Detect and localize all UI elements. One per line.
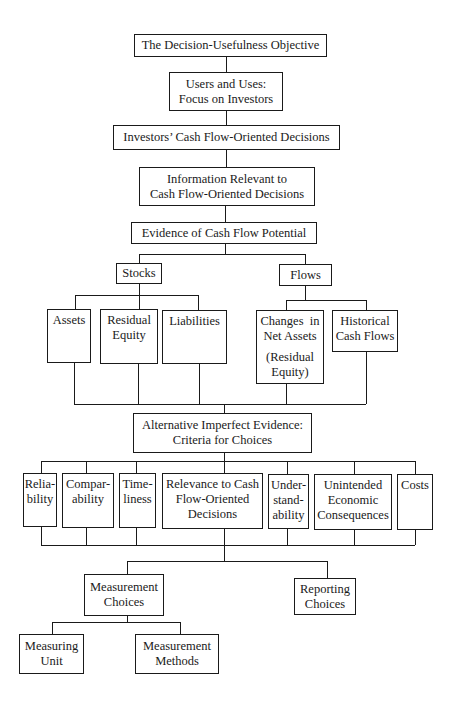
- node-investors-decisions: Investors’ Cash Flow-Oriented Decisions: [113, 125, 340, 150]
- node-label: Flows: [290, 268, 321, 283]
- node-label: Historical: [340, 314, 389, 329]
- node-label: Changes in: [260, 314, 319, 329]
- node-timeliness: Time- liness: [119, 473, 156, 528]
- node-measuring-unit: Measuring Unit: [19, 634, 84, 674]
- node-label: Unintended: [324, 478, 382, 493]
- connector: [224, 545, 225, 561]
- node-changes-in-net-assets: Changes in Net Assets (Residual Equity): [256, 310, 324, 384]
- node-label: Compar-: [66, 477, 110, 492]
- node-label: Relevance to Cash: [166, 477, 259, 492]
- node-label: Choices: [104, 595, 144, 610]
- connector: [180, 622, 181, 634]
- connector: [52, 622, 53, 634]
- node-evidence: Evidence of Cash Flow Potential: [131, 222, 317, 244]
- node-label: Criteria for Choices: [173, 433, 272, 448]
- node-measurement-choices: Measurement Choices: [84, 574, 164, 616]
- node-relevance: Relevance to Cash Flow-Oriented Decision…: [162, 473, 263, 529]
- node-label: Assets: [53, 313, 86, 328]
- connector: [139, 254, 305, 255]
- node-label: Methods: [155, 654, 199, 669]
- node-label: Time-: [122, 477, 152, 492]
- node-label: Reporting: [300, 582, 350, 597]
- connector: [225, 243, 226, 254]
- node-label: Choices: [305, 597, 345, 612]
- connector: [136, 461, 137, 473]
- node-label: Information Relevant to: [167, 172, 287, 187]
- node-label: Liabilities: [169, 314, 220, 329]
- node-label: (Residual: [266, 350, 314, 365]
- connector: [286, 300, 287, 310]
- connector: [127, 561, 327, 562]
- node-label: liness: [123, 492, 151, 507]
- node-comparability: Compar- ability: [62, 473, 114, 528]
- node-label: Alternative Imperfect Evidence:: [142, 418, 303, 433]
- connector: [354, 529, 355, 545]
- connector: [366, 300, 367, 310]
- node-residual-equity: Residual Equity: [100, 309, 158, 364]
- connector: [41, 461, 42, 473]
- connector: [41, 526, 42, 545]
- connector: [226, 56, 227, 72]
- node-costs: Costs: [397, 474, 433, 530]
- node-label: Relia-: [25, 477, 56, 492]
- connector: [127, 615, 128, 622]
- connector: [226, 110, 227, 125]
- connector: [354, 461, 355, 474]
- node-label: Evidence of Cash Flow Potential: [142, 226, 307, 241]
- node-measurement-methods: Measurement Methods: [135, 634, 219, 674]
- node-label: Net Assets: [263, 329, 316, 344]
- node-objective: The Decision-Usefulness Objective: [134, 34, 327, 57]
- connector: [305, 254, 306, 264]
- connector: [224, 528, 225, 545]
- connector: [415, 529, 416, 545]
- node-reporting-choices: Reporting Choices: [294, 578, 356, 615]
- node-flows: Flows: [279, 264, 332, 286]
- node-label: Equity): [271, 365, 309, 380]
- node-information-relevant: Information Relevant to Cash Flow-Orient…: [139, 167, 315, 206]
- connector: [139, 254, 140, 263]
- connector: [41, 545, 415, 546]
- connector: [136, 527, 137, 545]
- connector: [305, 285, 306, 300]
- connector: [415, 461, 416, 474]
- node-historical-cash-flows: Historical Cash Flows: [332, 310, 398, 352]
- connector: [75, 295, 198, 296]
- connector: [74, 404, 366, 405]
- connector: [224, 404, 225, 413]
- node-assets: Assets: [47, 309, 91, 363]
- node-label: Measurement: [90, 580, 158, 595]
- node-label: Under-: [271, 478, 306, 493]
- node-label: Cash Flow-Oriented Decisions: [150, 187, 304, 202]
- node-label: Equity: [112, 328, 145, 343]
- connector: [327, 561, 328, 578]
- node-label: The Decision-Usefulness Objective: [142, 38, 320, 53]
- node-label: bility: [27, 492, 53, 507]
- connector: [225, 205, 226, 222]
- node-liabilities: Liabilities: [162, 310, 227, 364]
- connector: [41, 461, 415, 462]
- connector: [287, 461, 288, 474]
- connector: [74, 362, 75, 404]
- node-label: stand-: [273, 493, 304, 508]
- connector: [286, 383, 287, 404]
- connector: [224, 461, 225, 473]
- node-label: Residual: [107, 313, 151, 328]
- node-unintended-consequences: Unintended Economic Consequences: [314, 474, 392, 530]
- connector: [286, 300, 366, 301]
- node-label: Users and Uses:: [186, 77, 267, 92]
- node-label: Measurement: [143, 639, 211, 654]
- connector: [287, 528, 288, 545]
- node-stocks: Stocks: [116, 263, 162, 284]
- node-label: Unit: [40, 654, 62, 669]
- node-label: ability: [72, 492, 104, 507]
- connector: [52, 622, 180, 623]
- connector: [199, 363, 200, 404]
- connector: [224, 452, 225, 461]
- connector: [86, 461, 87, 473]
- node-label: Decisions: [188, 507, 237, 522]
- node-label: Flow-Oriented: [176, 492, 250, 507]
- connector: [226, 149, 227, 167]
- connector: [138, 363, 139, 404]
- node-label: Consequences: [317, 508, 389, 523]
- connector: [139, 295, 140, 309]
